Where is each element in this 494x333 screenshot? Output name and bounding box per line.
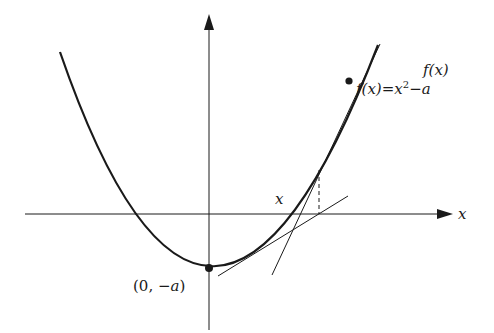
vertex-point bbox=[205, 264, 213, 272]
newton-method-diagram: f(x) f(x)=x2−a x x (0, −a) bbox=[0, 0, 494, 333]
vertex-label: (0, −a) bbox=[133, 277, 185, 295]
y-axis-arrow-icon bbox=[204, 14, 214, 30]
function-name-label: f(x) bbox=[422, 61, 449, 79]
tangent-line-next bbox=[218, 196, 348, 276]
function-formula-label: f(x)=x2−a bbox=[355, 79, 431, 98]
parabola-curve bbox=[60, 45, 378, 266]
iterate-x-label: x bbox=[275, 190, 284, 208]
tangent-line-current bbox=[272, 44, 380, 275]
x-axis-arrow-icon bbox=[437, 209, 453, 219]
current-point bbox=[345, 77, 352, 84]
x-axis-label: x bbox=[458, 205, 467, 223]
